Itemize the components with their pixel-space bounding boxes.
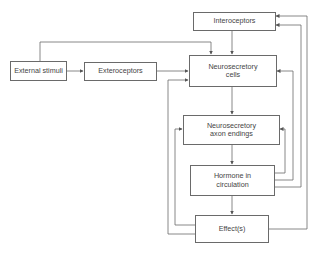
edge-external-to-neurocells [40, 42, 211, 61]
edge-hormone-to-interoceptors [274, 25, 301, 187]
external-stimuli-label: External stimuli [14, 67, 63, 76]
external-stimuli-box: External stimuli [10, 61, 67, 81]
hormone-box: Hormone in circulation [190, 165, 275, 196]
effects-box: Effect(s) [195, 215, 269, 243]
exteroceptors-box: Exteroceptors [84, 62, 157, 81]
neurosecretory-cells-line2: cells [226, 71, 240, 80]
hormone-line2: circulation [216, 181, 248, 190]
interoceptors-box: Interoceptors [193, 12, 276, 31]
exteroceptors-label: Exteroceptors [98, 67, 142, 76]
edge-effects-to-neurocells [168, 80, 195, 234]
axon-endings-line2: axon endings [210, 130, 253, 139]
interoceptors-label: Interoceptors [214, 17, 256, 26]
axon-endings-box: Neurosecretory axon endings [183, 115, 280, 145]
effects-label: Effect(s) [219, 225, 246, 234]
neurosecretory-cells-box: Neurosecretory cells [189, 55, 277, 87]
